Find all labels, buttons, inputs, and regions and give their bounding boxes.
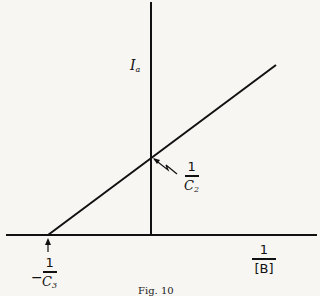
x-intercept-label: 1 C3 xyxy=(42,256,57,290)
x-intercept-sign: − xyxy=(31,270,43,284)
y-axis-label: Ia xyxy=(130,58,140,74)
y-intercept-label: 1 C2 xyxy=(184,160,199,194)
x-axis-label: 1 [B] xyxy=(252,243,276,275)
plot-line xyxy=(48,65,276,235)
figure-caption: Fig. 10 xyxy=(138,285,174,296)
